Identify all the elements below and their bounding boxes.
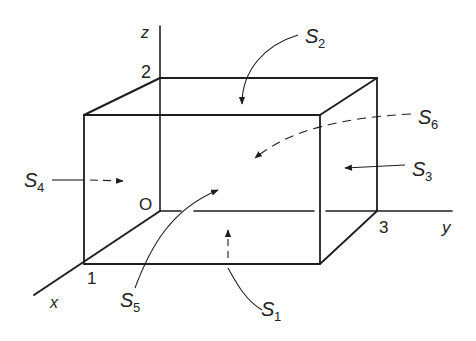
origin-label: O [139, 195, 152, 214]
box-diagram: z 2 O 3 y 1 x S 2 S 6 S 3 S 4 S 5 S 1 [0, 0, 476, 341]
svg-text:5: 5 [133, 300, 140, 315]
s2-arrow [242, 35, 298, 104]
svg-text:S: S [120, 289, 134, 311]
label-s3: S 3 [412, 158, 432, 184]
svg-text:S: S [305, 25, 319, 47]
y-tick-label: 3 [379, 218, 388, 237]
svg-text:6: 6 [431, 117, 438, 132]
svg-text:4: 4 [37, 180, 44, 195]
label-s4: S 4 [24, 169, 44, 195]
x-axis-label: x [49, 294, 59, 311]
svg-text:S: S [412, 158, 426, 180]
label-s5: S 5 [120, 289, 140, 315]
y-axis-label: y [441, 218, 452, 237]
z-axis-label: z [140, 24, 149, 41]
svg-text:S: S [24, 169, 38, 191]
x-tick-label: 1 [87, 269, 96, 288]
x-axis [34, 211, 160, 295]
svg-text:S: S [261, 298, 275, 320]
s6-arrow [255, 114, 411, 158]
s1-arrow [228, 268, 262, 310]
svg-text:1: 1 [274, 309, 281, 324]
label-s6: S 6 [418, 106, 438, 132]
svg-text:2: 2 [318, 36, 325, 51]
diagram-canvas: z 2 O 3 y 1 x S 2 S 6 S 3 S 4 S 5 S 1 [0, 0, 476, 341]
label-s1: S 1 [261, 298, 281, 324]
svg-text:3: 3 [425, 169, 432, 184]
z-tick-label: 2 [141, 62, 151, 82]
label-s2: S 2 [305, 25, 325, 51]
s3-arrow [345, 165, 405, 168]
svg-text:S: S [418, 106, 432, 128]
